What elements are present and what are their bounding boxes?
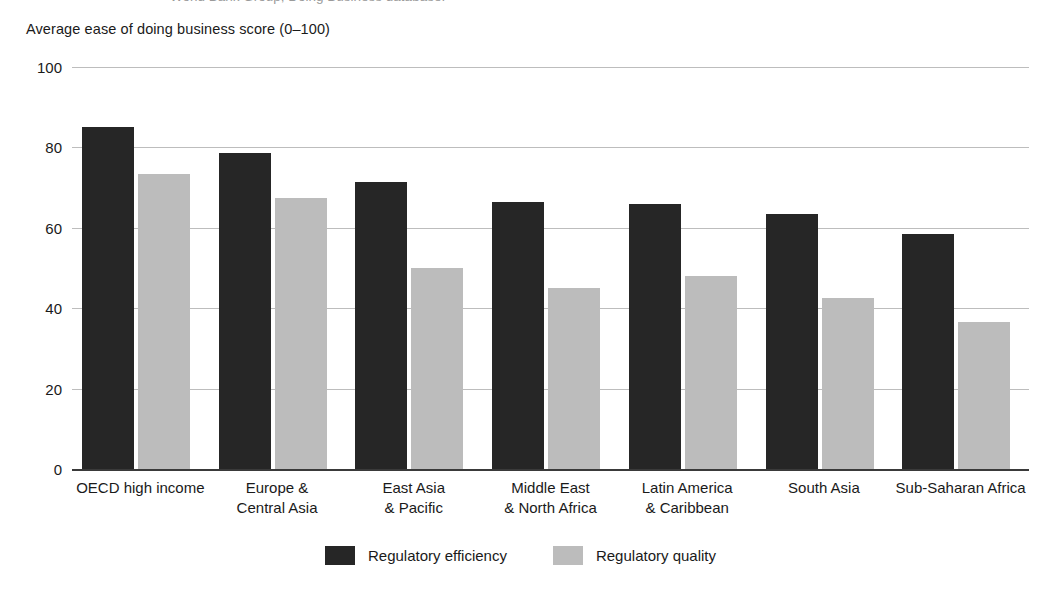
y-axis-tick-label: 40 bbox=[2, 300, 62, 317]
bar-group: Middle East & North Africa bbox=[482, 129, 619, 469]
bar-group: Europe & Central Asia bbox=[209, 129, 346, 469]
bar-group-bars bbox=[619, 129, 756, 469]
bar-regulatory-efficiency[interactable] bbox=[766, 214, 818, 469]
bar-regulatory-efficiency[interactable] bbox=[219, 153, 271, 469]
bar-group: South Asia bbox=[756, 129, 893, 469]
gridline bbox=[72, 67, 1029, 68]
bar-group-bars bbox=[345, 129, 482, 469]
bar-group-bars bbox=[756, 129, 893, 469]
bar-regulatory-quality[interactable] bbox=[822, 298, 874, 469]
bar-group: Latin America & Caribbean bbox=[619, 129, 756, 469]
bar-regulatory-quality[interactable] bbox=[958, 322, 1010, 469]
y-axis-tick-label: 80 bbox=[2, 139, 62, 156]
legend-swatch-light bbox=[553, 546, 583, 565]
bar-regulatory-efficiency[interactable] bbox=[492, 202, 544, 469]
x-axis-baseline bbox=[72, 469, 1029, 471]
bar-regulatory-quality[interactable] bbox=[548, 288, 600, 469]
legend-swatch-dark bbox=[325, 546, 355, 565]
bar-chart-plot-area: 020406080100 OECD high incomeEurope & Ce… bbox=[0, 0, 1041, 603]
bar-regulatory-efficiency[interactable] bbox=[902, 234, 954, 469]
y-axis-tick-label: 100 bbox=[2, 59, 62, 76]
legend-item[interactable]: Regulatory efficiency bbox=[325, 546, 507, 565]
chart-legend: Regulatory efficiencyRegulatory quality bbox=[0, 546, 1041, 565]
bar-group-bars bbox=[482, 129, 619, 469]
y-axis-tick-label: 60 bbox=[2, 219, 62, 236]
bar-regulatory-efficiency[interactable] bbox=[629, 204, 681, 469]
bar-group: OECD high income bbox=[72, 129, 209, 469]
bar-regulatory-efficiency[interactable] bbox=[355, 182, 407, 469]
legend-item[interactable]: Regulatory quality bbox=[553, 546, 716, 565]
bar-regulatory-quality[interactable] bbox=[275, 198, 327, 469]
y-axis-tick-label: 0 bbox=[2, 461, 62, 478]
x-axis-category-label: Sub-Saharan Africa bbox=[866, 478, 1041, 498]
bar-group-bars bbox=[72, 129, 209, 469]
bar-group: Sub-Saharan Africa bbox=[892, 129, 1029, 469]
bar-regulatory-quality[interactable] bbox=[138, 174, 190, 469]
y-axis-tick-label: 20 bbox=[2, 380, 62, 397]
legend-label: Regulatory quality bbox=[596, 547, 716, 564]
bar-group: East Asia & Pacific bbox=[345, 129, 482, 469]
bar-group-bars bbox=[209, 129, 346, 469]
bar-regulatory-quality[interactable] bbox=[685, 276, 737, 469]
bar-group-bars bbox=[892, 129, 1029, 469]
bar-regulatory-quality[interactable] bbox=[411, 268, 463, 469]
bar-regulatory-efficiency[interactable] bbox=[82, 127, 134, 469]
legend-label: Regulatory efficiency bbox=[368, 547, 507, 564]
